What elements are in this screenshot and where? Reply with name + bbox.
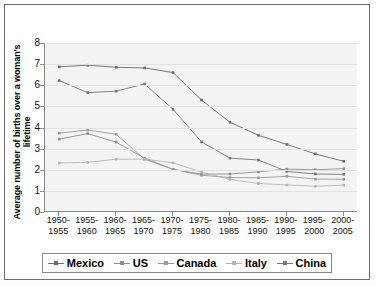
gridline [45, 43, 357, 44]
gridline [45, 149, 357, 150]
legend-marker-icon [277, 259, 293, 267]
y-axis-tick-mark [40, 149, 44, 150]
chart-legend: MexicoUSCanadaItalyChina [42, 253, 332, 273]
y-axis-tick-mark [40, 64, 44, 65]
gridline [45, 64, 357, 65]
legend-marker-icon [114, 259, 130, 267]
x-axis-tick-label: 2000-2005 [323, 215, 363, 237]
legend-item-italy[interactable]: Italy [226, 257, 267, 269]
legend-item-canada[interactable]: Canada [158, 257, 217, 269]
y-axis-tick-mark [40, 85, 44, 86]
x-axis-tick-label-line: 2005 [323, 226, 363, 237]
legend-label: Italy [245, 257, 267, 269]
y-axis-tick-mark [40, 43, 44, 44]
legend-item-mexico[interactable]: Mexico [48, 257, 104, 269]
legend-item-china[interactable]: China [277, 257, 327, 269]
gridline [45, 85, 357, 86]
legend-marker-icon [158, 259, 174, 267]
gridline [45, 106, 357, 107]
y-axis-tick-mark [40, 191, 44, 192]
y-axis-tick-mark [40, 106, 44, 107]
y-axis-tick-mark [40, 170, 44, 171]
x-axis-tick-label-line: 2000- [323, 215, 363, 226]
y-axis-title: Average number of births over a woman's … [12, 37, 32, 227]
x-axis-tick-mark [229, 212, 230, 216]
legend-marker-icon [48, 259, 64, 267]
legend-item-us[interactable]: US [114, 257, 148, 269]
x-axis-tick-mark [58, 212, 59, 216]
chart-figure: 012345678 Average number of births over … [0, 0, 376, 286]
y-axis-tick-mark [40, 128, 44, 129]
x-axis-tick-mark [172, 212, 173, 216]
gridline [45, 191, 357, 192]
gridline [45, 170, 357, 171]
legend-label: US [133, 257, 148, 269]
legend-marker-icon [226, 259, 242, 267]
y-axis-tick-mark [40, 212, 44, 213]
x-axis-tick-mark [115, 212, 116, 216]
legend-label: Mexico [67, 257, 104, 269]
legend-label: China [296, 257, 327, 269]
x-axis-tick-mark [343, 212, 344, 216]
x-axis-tick-mark [286, 212, 287, 216]
plot-area [44, 43, 357, 212]
legend-label: Canada [177, 257, 217, 269]
x-axis-tick-labels: 1950-19551955-19601960-19651965-19701970… [44, 215, 357, 243]
gridlines [45, 43, 357, 211]
gridline [45, 128, 357, 129]
